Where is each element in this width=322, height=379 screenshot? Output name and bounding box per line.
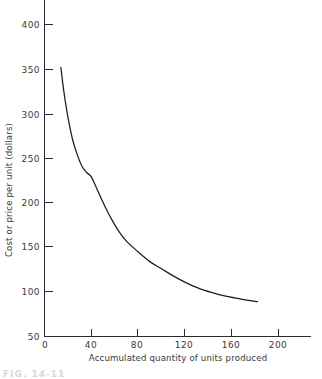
x-tick-label-200: 200 [269,340,287,350]
y-tick-label-150: 150 [22,242,40,252]
figure-container: 400 350 300 250 200 150 100 50 0 40 80 1… [0,0,322,379]
x-axis-title: Accumulated quantity of units produced [89,353,268,363]
y-axis-title: Cost or price per unit (dollars) [4,123,14,257]
x-axis-tick-labels: 0 40 80 120 160 200 [42,340,287,350]
axes-group [45,0,312,337]
x-tick-label-40: 40 [85,340,97,350]
x-tick-label-0: 0 [42,340,48,350]
x-tick-label-80: 80 [131,340,143,350]
experience-curve-chart: 400 350 300 250 200 150 100 50 0 40 80 1… [0,0,322,379]
y-axis-ticks [45,25,53,292]
x-tick-label-160: 160 [222,340,240,350]
y-tick-label-300: 300 [22,110,40,120]
x-axis-ticks [92,329,279,337]
y-tick-label-100: 100 [22,287,40,297]
learning-curve-line [61,67,258,301]
y-tick-label-400: 400 [22,20,40,30]
figure-caption-fragment: FIG. 14-11 [3,369,65,379]
x-tick-label-120: 120 [175,340,193,350]
y-tick-label-50: 50 [28,332,40,342]
y-tick-label-200: 200 [22,198,40,208]
y-tick-label-350: 350 [22,65,40,75]
y-axis-tick-labels: 400 350 300 250 200 150 100 50 [22,20,40,342]
y-tick-label-250: 250 [22,154,40,164]
